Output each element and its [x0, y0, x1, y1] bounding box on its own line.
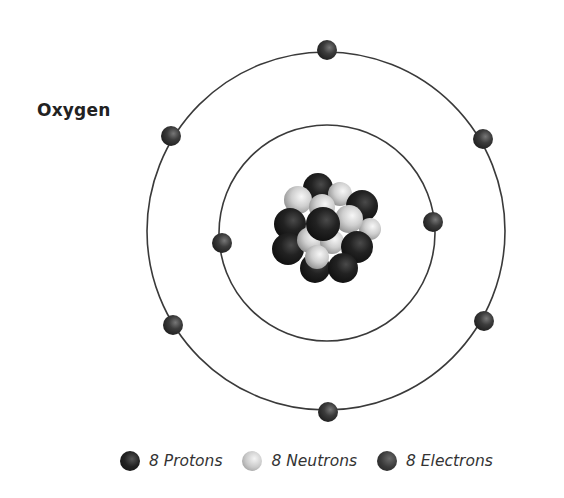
electron-icon — [377, 451, 397, 471]
electron — [473, 129, 493, 149]
legend-label: 8 Neutrons — [271, 452, 357, 470]
electron — [163, 315, 183, 335]
electron — [161, 126, 181, 146]
atom-diagram — [0, 0, 564, 498]
neutron — [305, 245, 329, 269]
legend-label: 8 Protons — [149, 452, 222, 470]
legend-item-protons: 8 Protons — [120, 451, 222, 471]
electron — [423, 212, 443, 232]
electron — [474, 311, 494, 331]
legend-item-neutrons: 8 Neutrons — [242, 451, 357, 471]
electron — [317, 40, 337, 60]
electron — [318, 402, 338, 422]
legend-label: 8 Electrons — [406, 452, 493, 470]
proton — [328, 253, 358, 283]
nucleus — [272, 173, 381, 283]
legend: 8 Protons 8 Neutrons 8 Electrons — [120, 451, 513, 471]
proton-icon — [120, 451, 140, 471]
neutron-icon — [242, 451, 262, 471]
proton — [306, 207, 340, 241]
legend-item-electrons: 8 Electrons — [377, 451, 493, 471]
electron — [212, 233, 232, 253]
